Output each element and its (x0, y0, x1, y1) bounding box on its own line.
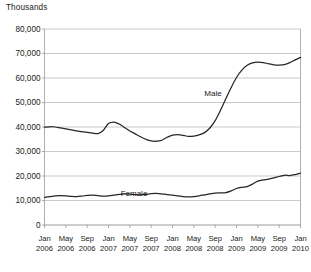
x-axis-label-year: 2007 (121, 244, 138, 253)
x-axis-ticks-group (45, 225, 301, 228)
x-axis-label-year: 2007 (143, 244, 160, 253)
x-axis-label-year: 2009 (249, 244, 266, 253)
y-axis-label-30000: 30,000 (15, 147, 40, 156)
x-axis-label-month: May (187, 234, 202, 243)
line-chart-svg: 010,00020,00030,00040,00050,00060,00070,… (0, 0, 311, 272)
y-axis-label-40000: 40,000 (15, 123, 40, 132)
x-axis-label-month: Jan (230, 234, 242, 243)
x-axis-label-month: Sep (144, 234, 158, 243)
x-axis-label-year: 2009 (228, 244, 245, 253)
x-axis-label-year: 2008 (207, 244, 224, 253)
x-axis-label-month: Jan (102, 234, 114, 243)
x-axis-label-month: Jan (294, 234, 306, 243)
series-line-male (45, 57, 301, 141)
x-axis-label-year: 2006 (36, 244, 53, 253)
series-label-female: Female (121, 189, 148, 198)
x-axis-label-year: 2008 (164, 244, 181, 253)
x-axis-label-year: 2008 (185, 244, 202, 253)
series-line-female (45, 173, 301, 197)
x-axis-label-month: Sep (80, 234, 94, 243)
series-inline-labels-group: MaleFemale (121, 89, 223, 198)
x-axis-label-year: 2010 (292, 244, 309, 253)
y-axis-labels-group: 010,00020,00030,00040,00050,00060,00070,… (15, 25, 44, 230)
x-axis-label-year: 2009 (271, 244, 288, 253)
y-axis-label-20000: 20,000 (15, 172, 40, 181)
x-axis-label-month: May (59, 234, 74, 243)
x-axis-label-year: 2006 (79, 244, 96, 253)
x-axis-label-month: Sep (272, 234, 286, 243)
series-label-male: Male (204, 89, 222, 98)
chart-container: Thousands 010,00020,00030,00040,00050,00… (0, 0, 311, 272)
x-axis-label-month: May (251, 234, 266, 243)
x-axis-label-month: Sep (208, 234, 222, 243)
x-axis-label-month: Jan (166, 234, 178, 243)
x-axis-label-year: 2007 (100, 244, 117, 253)
y-axis-label-0: 0 (36, 221, 41, 230)
y-axis-label-80000: 80,000 (15, 25, 40, 34)
x-axis-label-month: Jan (38, 234, 50, 243)
y-axis-label-50000: 50,000 (15, 98, 40, 107)
x-axis-label-year: 2006 (57, 244, 74, 253)
y-axis-label-70000: 70,000 (15, 49, 40, 58)
y-axis-label-60000: 60,000 (15, 74, 40, 83)
y-axis-label-10000: 10,000 (15, 196, 40, 205)
x-axis-label-month: May (123, 234, 138, 243)
x-axis-labels-group: Jan2006May2006Sep2006Jan2007May2007Sep20… (36, 234, 309, 253)
